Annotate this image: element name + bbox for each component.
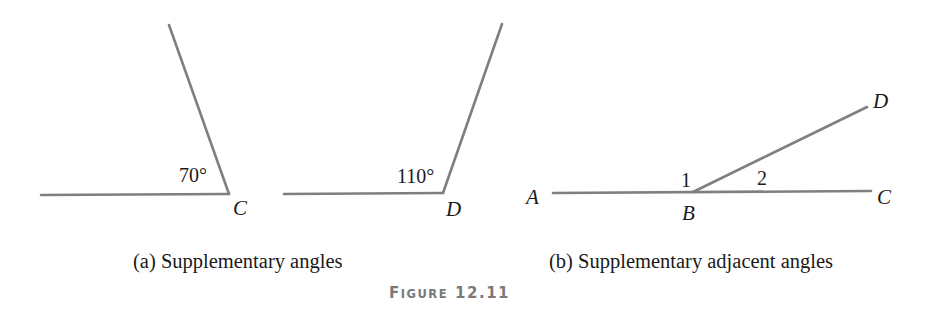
- angle-d-horizontal-ray: [284, 193, 443, 194]
- figure-number: FIGURE 12.11: [389, 285, 510, 301]
- ray-bd: [693, 107, 867, 192]
- angle-c-horizontal-ray: [41, 194, 229, 195]
- point-label-a: A: [526, 187, 539, 208]
- figure-word-rest: IGURE: [401, 287, 448, 301]
- angle-d-slanted-ray: [443, 24, 502, 193]
- figure-number-value: 12.11: [455, 284, 510, 302]
- line-ac: [553, 191, 871, 193]
- point-label-b: B: [682, 203, 695, 224]
- angle-1-label: 1: [681, 170, 691, 190]
- caption-panel-a: (a) Supplementary angles: [133, 251, 342, 272]
- point-label-d: D: [873, 91, 888, 112]
- angle-2-label: 2: [757, 168, 767, 188]
- angle-c-measure: 70°: [179, 165, 207, 185]
- angle-d-measure: 110°: [397, 166, 434, 186]
- caption-panel-b: (b) Supplementary adjacent angles: [549, 251, 833, 272]
- point-label-c: C: [877, 187, 891, 208]
- vertex-label-c: C: [233, 198, 247, 219]
- figure-word-initial: F: [389, 284, 401, 302]
- vertex-label-d: D: [446, 199, 461, 220]
